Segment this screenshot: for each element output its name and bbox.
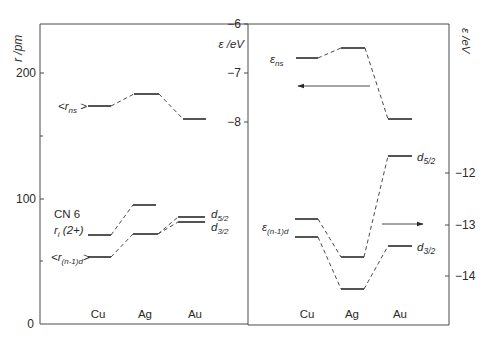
label-left-d32: d3/2 — [211, 221, 229, 236]
connector — [111, 205, 133, 235]
left-category-au: Au — [188, 308, 202, 320]
left-panel: r /pm 200 100 0 Cu Ag Au <rns > — [11, 24, 248, 331]
connector — [158, 222, 178, 234]
tick-label-m12: −12 — [455, 166, 476, 180]
left-tick-label-0: 0 — [27, 317, 34, 331]
tick-label-m6: −6 — [227, 17, 241, 31]
right-frame — [248, 24, 449, 325]
connector — [111, 234, 133, 257]
tick-label-m8: −8 — [227, 115, 241, 129]
label-ed: ε(n-1)d — [262, 221, 289, 236]
connector — [159, 94, 183, 119]
left-frame — [40, 24, 248, 324]
series-ed-d32 — [295, 237, 412, 289]
connector — [364, 156, 388, 257]
label-right-d52: d5/2 — [417, 151, 435, 166]
series-ri — [88, 205, 205, 235]
tick-label-m14: −14 — [455, 269, 476, 283]
right-panel: ε /eV −12 −13 −14 Cu Ag Au εns — [248, 24, 476, 325]
series-r-ns — [88, 94, 206, 119]
upper-energy-axis: −6 −7 −8 ε /eV — [218, 17, 248, 325]
tick-label-m7: −7 — [227, 66, 241, 80]
connector — [318, 48, 341, 58]
right-category-cu: Cu — [300, 308, 315, 320]
label-right-d32: d3/2 — [417, 241, 435, 256]
connector — [365, 48, 388, 119]
left-category-cu: Cu — [91, 308, 106, 320]
connector — [318, 237, 341, 289]
left-category-ag: Ag — [138, 308, 152, 320]
right-category-au: Au — [393, 308, 407, 320]
label-rns: <rns > — [58, 100, 87, 115]
left-tick-label-100: 100 — [16, 192, 36, 206]
label-cn6: CN 6 — [54, 208, 80, 220]
label-ri: ri (2+) — [54, 224, 84, 239]
connector — [318, 219, 341, 257]
right-category-ag: Ag — [345, 308, 359, 320]
label-rd: <r(n-1)d> — [51, 251, 90, 266]
label-ens: εns — [270, 53, 284, 68]
connector — [111, 94, 134, 106]
series-ed-d52 — [295, 156, 412, 257]
series-rd — [88, 222, 205, 257]
series-e-ns — [296, 48, 412, 119]
tick-label-m13: −13 — [455, 218, 476, 232]
connector — [364, 246, 388, 289]
upper-axis-label: ε /eV — [218, 38, 245, 50]
left-tick-label-200: 200 — [16, 66, 36, 80]
lower-axis-label: ε /eV — [460, 28, 472, 55]
energy-radius-chart: r /pm 200 100 0 Cu Ag Au <rns > — [0, 0, 493, 345]
left-y-axis-label: r /pm — [11, 35, 25, 62]
connector — [158, 217, 178, 234]
